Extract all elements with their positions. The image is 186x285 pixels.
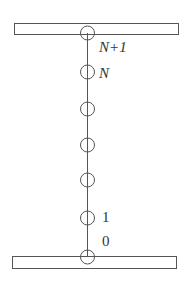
label-n: N (98, 65, 110, 81)
label-1: 1 (102, 209, 110, 225)
top-plate (15, 24, 179, 35)
label-0: 0 (102, 233, 110, 249)
chain-diagram: N+1 N 1 0 (0, 0, 186, 285)
label-n-plus-1: N+1 (98, 39, 127, 55)
